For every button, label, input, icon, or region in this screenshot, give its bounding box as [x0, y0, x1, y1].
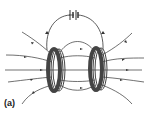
coil-field-diagram: [0, 0, 148, 132]
figure-label: (a): [4, 98, 15, 108]
right-coil: [90, 48, 107, 90]
field-lines: [5, 32, 144, 104]
field-arrows: [24, 31, 129, 94]
battery-circuit: [47, 10, 103, 50]
